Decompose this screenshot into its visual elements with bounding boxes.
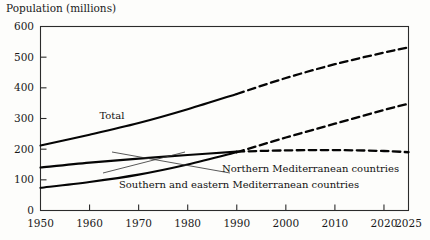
x-tick-label: 1960 (76, 217, 103, 229)
chart-svg: Population (millions) 010020030040050060… (0, 0, 430, 240)
y-tick-label: 400 (14, 81, 34, 93)
x-tick-label: 1980 (174, 217, 201, 229)
series-line-northern-projected (237, 150, 409, 152)
x-tick-label: 1950 (27, 217, 54, 229)
y-tick-label: 0 (27, 204, 34, 216)
y-tick-label: 200 (14, 143, 34, 155)
y-tick-label: 600 (14, 20, 34, 32)
x-tick-label: 2000 (272, 217, 299, 229)
annotation-label: Total (99, 110, 124, 121)
x-axis-tick-labels: 195019601970198019902000201020202025 (27, 217, 422, 229)
y-tick-label: 500 (14, 51, 34, 63)
population-chart: Population (millions) 010020030040050060… (0, 0, 430, 240)
annotation-label: Northern Mediterranean countries (222, 163, 399, 174)
y-axis-title: Population (millions) (6, 2, 116, 14)
series-line-southern-projected (237, 104, 409, 152)
series-line-total-projected (237, 47, 409, 94)
x-tick-label: 1970 (125, 217, 152, 229)
y-axis-tick-labels: 0100200300400500600 (14, 20, 34, 216)
x-tick-label: 2020 (371, 217, 398, 229)
x-tick-label: 2010 (322, 217, 349, 229)
y-tick-label: 300 (14, 112, 34, 124)
x-tick-label: 1990 (223, 217, 250, 229)
x-tick-label: 2025 (395, 217, 422, 229)
y-tick-label: 100 (14, 173, 34, 185)
series-line-total-observed (41, 94, 237, 146)
annotation-label: Southern and eastern Mediterranean count… (119, 179, 359, 190)
